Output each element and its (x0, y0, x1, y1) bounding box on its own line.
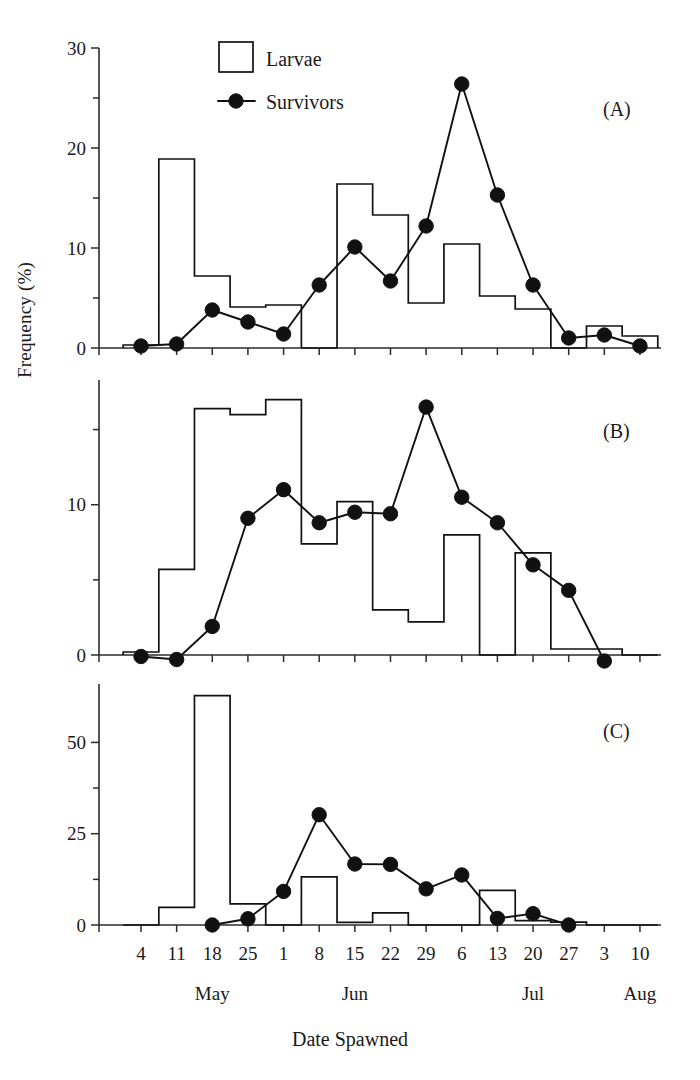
survivors-point (134, 339, 148, 353)
panel-b-plot: 010(B) (0, 370, 700, 670)
survivors-point (205, 619, 219, 633)
y-tick-label: 50 (67, 732, 86, 753)
survivors-point (526, 558, 540, 572)
y-tick-label: 30 (67, 38, 86, 59)
survivors-point (312, 278, 326, 292)
x-tick-label: 11 (167, 943, 185, 964)
survivors-point (348, 505, 362, 519)
panel-c-plot: 02550(C) (0, 670, 700, 940)
survivors-point (633, 339, 647, 353)
x-tick-label: 3 (600, 943, 610, 964)
survivors-point (455, 868, 469, 882)
y-tick-label: 0 (77, 338, 87, 359)
survivors-point (205, 303, 219, 317)
panel-b: 010(B) (0, 370, 700, 670)
x-axis-title: Date Spawned (0, 1028, 700, 1051)
survivors-point (276, 327, 290, 341)
survivors-point (490, 188, 504, 202)
survivors-point (490, 911, 504, 925)
survivors-point (241, 315, 255, 329)
survivors-point (383, 274, 397, 288)
panel-tag: (B) (603, 420, 630, 443)
survivors-point (526, 906, 540, 920)
survivors-point (455, 77, 469, 91)
survivors-point (276, 482, 290, 496)
x-month-label: Aug (624, 983, 657, 1004)
survivors-point (455, 490, 469, 504)
survivors-point (419, 219, 433, 233)
x-tick-label: 29 (417, 943, 436, 964)
x-month-label: May (195, 983, 230, 1004)
x-tick-label: 25 (238, 943, 257, 964)
x-month-label: Jun (342, 983, 369, 1004)
survivors-point (312, 808, 326, 822)
survivors-point (169, 652, 183, 666)
y-tick-label: 25 (67, 823, 86, 844)
survivors-point (419, 400, 433, 414)
panel-tag: (A) (603, 98, 631, 121)
y-tick-label: 20 (67, 138, 86, 159)
survivors-point (597, 654, 611, 668)
y-tick-label: 0 (77, 645, 87, 666)
survivors-point (241, 511, 255, 525)
x-tick-label: 22 (381, 943, 400, 964)
x-tick-label: 15 (345, 943, 364, 964)
y-tick-label: 10 (67, 238, 86, 259)
x-tick-label: 1 (279, 943, 289, 964)
x-tick-label: 6 (457, 943, 467, 964)
survivors-point (169, 337, 183, 351)
survivors-point (561, 331, 575, 345)
x-tick-label: 10 (630, 943, 649, 964)
survivors-point (419, 882, 433, 896)
legend-survivors-label: Survivors (266, 91, 344, 113)
x-tick-label: 13 (488, 943, 507, 964)
survivors-point (383, 507, 397, 521)
survivors-point (312, 516, 326, 530)
survivors-point (597, 328, 611, 342)
x-tick-label: 8 (314, 943, 324, 964)
x-tick-label: 18 (203, 943, 222, 964)
survivors-point (490, 516, 504, 530)
x-axis-ticks-and-labels: 4111825181522296132027310MayJunJulAug (0, 930, 700, 1040)
survivors-point (561, 583, 575, 597)
figure-root: Frequency (%) 0102030(A)LarvaeSurvivors … (0, 0, 700, 1080)
survivors-point (348, 857, 362, 871)
x-tick-label: 4 (136, 943, 146, 964)
legend-larvae-swatch (219, 42, 253, 72)
larvae-histogram (123, 400, 658, 655)
survivors-point (383, 857, 397, 871)
x-tick-label: 27 (559, 943, 578, 964)
x-tick-label: 20 (524, 943, 543, 964)
larvae-histogram (123, 696, 658, 925)
survivors-point (526, 278, 540, 292)
panel-a-plot: 0102030(A)LarvaeSurvivors (0, 0, 700, 370)
legend-larvae-label: Larvae (266, 48, 322, 70)
survivors-point (134, 649, 148, 663)
panel-tag: (C) (603, 720, 630, 743)
x-month-label: Jul (522, 983, 544, 1004)
panel-c: 02550(C) (0, 670, 700, 940)
y-tick-label: 10 (67, 494, 86, 515)
survivors-point (241, 912, 255, 926)
x-axis-area: 4111825181522296132027310MayJunJulAug (0, 930, 700, 1080)
survivors-point (348, 240, 362, 254)
legend-survivors-swatch-marker (229, 94, 243, 108)
survivors-point (276, 884, 290, 898)
panel-a: 0102030(A)LarvaeSurvivors (0, 0, 700, 370)
